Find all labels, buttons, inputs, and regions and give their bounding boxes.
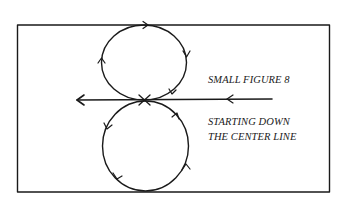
figure-title: SMALL FIGURE 8	[208, 73, 290, 87]
lower-loop-lower-left-arrow-icon	[113, 173, 122, 179]
arena-frame	[18, 25, 330, 192]
caption-line-2: THE CENTER LINE	[208, 130, 296, 144]
figure-8-diagram	[0, 0, 339, 200]
caption-line-1: STARTING DOWN	[208, 115, 290, 129]
center-line	[77, 99, 272, 100]
upper-loop-right-arrow-icon	[183, 51, 190, 57]
upper-loop	[102, 25, 187, 100]
lower-loop-upper-right-arrow-icon	[172, 113, 179, 119]
